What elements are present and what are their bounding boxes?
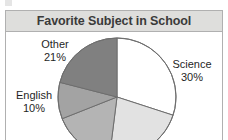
pie-label-science: Science 30% (163, 58, 221, 83)
pie-label-science-name: Science (172, 58, 211, 70)
scan-artifact (5, 0, 12, 6)
pie-label-english: English 10% (6, 89, 62, 114)
pie-label-english-percent: 10% (6, 102, 62, 115)
page-title: Favorite Subject in School (37, 14, 191, 28)
pie-label-science-percent: 30% (163, 71, 221, 84)
chart-figure: Favorite Subject in School Other 21% Eng… (5, 10, 223, 140)
pie-label-other-percent: 21% (27, 51, 83, 64)
pie-label-other-name: Other (41, 38, 69, 50)
pie-label-english-name: English (16, 89, 52, 101)
chart-title-bar: Favorite Subject in School (6, 11, 222, 32)
pie-label-other: Other 21% (27, 38, 83, 63)
pie-chart-plot-area: Other 21% English 10% Science 30% (6, 32, 222, 140)
